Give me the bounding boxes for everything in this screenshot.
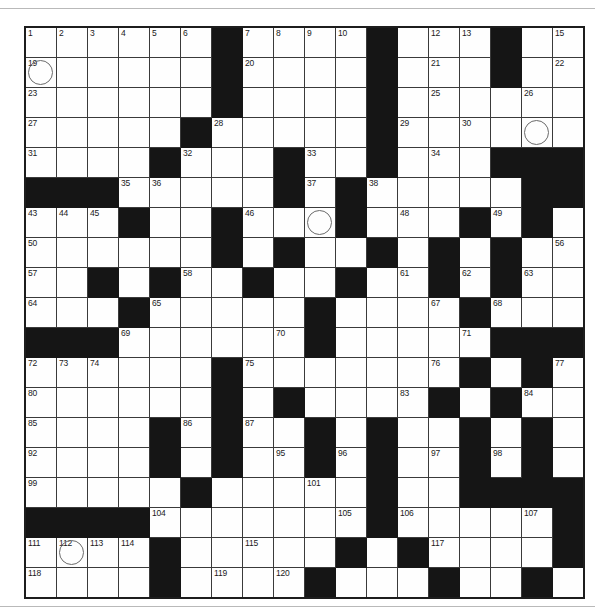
- grid-cell[interactable]: [367, 208, 398, 238]
- grid-cell[interactable]: 2: [57, 27, 88, 58]
- grid-cell[interactable]: 83: [398, 388, 429, 418]
- grid-cell[interactable]: 87: [243, 418, 274, 448]
- grid-cell[interactable]: [150, 88, 181, 118]
- grid-cell[interactable]: [57, 448, 88, 478]
- grid-cell[interactable]: 50: [25, 238, 57, 268]
- grid-cell[interactable]: 105: [336, 508, 367, 538]
- grid-cell[interactable]: 9: [305, 27, 336, 58]
- grid-cell[interactable]: [212, 328, 243, 358]
- grid-cell[interactable]: [398, 418, 429, 448]
- grid-cell[interactable]: [336, 478, 367, 508]
- grid-cell[interactable]: 33: [305, 148, 336, 178]
- grid-cell[interactable]: [429, 208, 460, 238]
- grid-cell[interactable]: 64: [25, 298, 57, 328]
- grid-cell[interactable]: [460, 58, 491, 88]
- grid-cell[interactable]: 13: [460, 27, 491, 58]
- grid-cell[interactable]: [150, 238, 181, 268]
- grid-cell[interactable]: [119, 268, 150, 298]
- grid-cell[interactable]: [274, 358, 305, 388]
- grid-cell[interactable]: [367, 388, 398, 418]
- grid-cell[interactable]: [57, 268, 88, 298]
- grid-cell[interactable]: [212, 298, 243, 328]
- grid-cell[interactable]: 70: [274, 328, 305, 358]
- grid-cell[interactable]: [57, 238, 88, 268]
- grid-cell[interactable]: [553, 118, 585, 148]
- grid-cell[interactable]: [305, 508, 336, 538]
- grid-cell[interactable]: 32: [181, 148, 212, 178]
- grid-cell[interactable]: [429, 328, 460, 358]
- grid-cell[interactable]: 25: [429, 88, 460, 118]
- grid-cell[interactable]: 3: [88, 27, 119, 58]
- grid-cell[interactable]: [119, 418, 150, 448]
- grid-cell[interactable]: 120: [274, 568, 305, 599]
- grid-cell[interactable]: [88, 238, 119, 268]
- grid-cell[interactable]: [460, 388, 491, 418]
- grid-cell[interactable]: 101: [305, 478, 336, 508]
- grid-cell[interactable]: [88, 88, 119, 118]
- grid-cell[interactable]: [243, 118, 274, 148]
- grid-cell[interactable]: 85: [25, 418, 57, 448]
- grid-cell[interactable]: 62: [460, 268, 491, 298]
- grid-cell[interactable]: 114: [119, 538, 150, 568]
- grid-cell[interactable]: [119, 118, 150, 148]
- grid-cell[interactable]: [305, 538, 336, 568]
- grid-cell[interactable]: [243, 148, 274, 178]
- grid-cell[interactable]: [181, 538, 212, 568]
- grid-cell[interactable]: [553, 268, 585, 298]
- grid-cell[interactable]: [336, 388, 367, 418]
- grid-cell[interactable]: [212, 538, 243, 568]
- grid-cell[interactable]: [212, 148, 243, 178]
- grid-cell[interactable]: [243, 328, 274, 358]
- grid-cell[interactable]: 71: [460, 328, 491, 358]
- grid-cell[interactable]: [181, 448, 212, 478]
- grid-cell[interactable]: 98: [491, 448, 522, 478]
- grid-cell[interactable]: [367, 358, 398, 388]
- grid-cell[interactable]: 117: [429, 538, 460, 568]
- grid-cell[interactable]: [212, 478, 243, 508]
- grid-cell[interactable]: 4: [119, 27, 150, 58]
- grid-cell[interactable]: [336, 568, 367, 599]
- grid-cell[interactable]: [119, 58, 150, 88]
- grid-cell[interactable]: [274, 58, 305, 88]
- grid-cell[interactable]: [305, 238, 336, 268]
- grid-cell[interactable]: [88, 568, 119, 599]
- grid-cell[interactable]: [553, 448, 585, 478]
- grid-cell[interactable]: [553, 88, 585, 118]
- grid-cell[interactable]: 26: [522, 88, 553, 118]
- grid-cell[interactable]: [57, 118, 88, 148]
- grid-cell[interactable]: [305, 388, 336, 418]
- grid-cell[interactable]: [553, 568, 585, 599]
- grid-cell[interactable]: [429, 178, 460, 208]
- grid-cell[interactable]: [274, 268, 305, 298]
- grid-cell[interactable]: [367, 298, 398, 328]
- grid-cell[interactable]: [88, 298, 119, 328]
- grid-cell[interactable]: [243, 508, 274, 538]
- grid-cell[interactable]: 22: [553, 58, 585, 88]
- grid-cell[interactable]: [398, 328, 429, 358]
- grid-cell[interactable]: 97: [429, 448, 460, 478]
- grid-cell[interactable]: 99: [25, 478, 57, 508]
- grid-cell[interactable]: [243, 448, 274, 478]
- grid-cell[interactable]: [119, 88, 150, 118]
- grid-cell[interactable]: 84: [522, 388, 553, 418]
- grid-cell[interactable]: 111: [25, 538, 57, 568]
- grid-cell[interactable]: 21: [429, 58, 460, 88]
- grid-cell[interactable]: [491, 88, 522, 118]
- grid-cell[interactable]: [119, 148, 150, 178]
- grid-cell[interactable]: 74: [88, 358, 119, 388]
- grid-cell[interactable]: 72: [25, 358, 57, 388]
- grid-cell[interactable]: [398, 178, 429, 208]
- grid-cell[interactable]: [119, 448, 150, 478]
- grid-cell[interactable]: [181, 298, 212, 328]
- grid-cell[interactable]: 20: [243, 58, 274, 88]
- grid-cell[interactable]: 113: [88, 538, 119, 568]
- grid-cell[interactable]: [553, 388, 585, 418]
- grid-cell[interactable]: [398, 568, 429, 599]
- grid-cell[interactable]: [398, 238, 429, 268]
- grid-cell[interactable]: [460, 568, 491, 599]
- grid-cell[interactable]: 28: [212, 118, 243, 148]
- grid-cell[interactable]: [429, 508, 460, 538]
- grid-cell[interactable]: 56: [553, 238, 585, 268]
- grid-cell[interactable]: 112: [57, 538, 88, 568]
- grid-cell[interactable]: [57, 388, 88, 418]
